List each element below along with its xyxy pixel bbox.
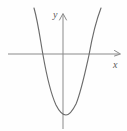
x-axis-label: x: [112, 59, 118, 70]
graph-canvas: x y: [0, 0, 127, 131]
y-axis-label: y: [52, 9, 58, 20]
parabola-figure: x y: [0, 0, 127, 131]
